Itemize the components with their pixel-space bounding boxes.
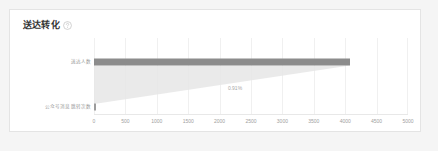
x-axis-line [94,114,408,115]
x-tick-label: 1000 [151,118,162,125]
plot-area: 0.91% [94,38,408,114]
x-tick-label: 3500 [308,118,319,125]
y-axis-label-0: 送达人数 [71,59,91,65]
x-tick-label: 5000 [402,118,413,125]
bar-jump-count[interactable] [94,104,96,111]
conversion-rate-label: 0.91% [228,85,242,92]
x-tick-label: 4500 [371,118,382,125]
x-tick-label: 0 [93,118,96,125]
y-axis-label-1: 公众号消息跳转次数 [45,104,91,110]
card-header: 送达转化 [23,19,72,31]
x-tick-label: 500 [121,118,129,125]
y-axis-labels: 送达人数 公众号消息跳转次数 [10,38,91,114]
funnel-connector [94,38,408,114]
x-tick-label: 4000 [340,118,351,125]
x-tick-label: 3000 [277,118,288,125]
page-title: 送达转化 [23,19,60,31]
delivery-conversion-card: 送达转化 送达人数 公众号消息跳转次数 [9,9,421,132]
funnel-chart: 送达人数 公众号消息跳转次数 0.91% [10,36,420,132]
x-tick-label: 2500 [245,118,256,125]
x-tick-label: 2000 [214,118,225,125]
x-tick-label: 1500 [183,118,194,125]
bar-delivered[interactable] [94,59,350,66]
help-circle-icon[interactable] [63,21,72,30]
